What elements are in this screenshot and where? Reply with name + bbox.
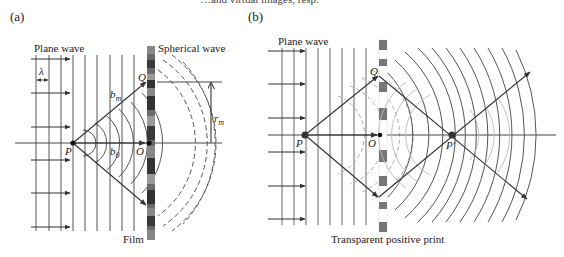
- label-P-prime: P′: [445, 139, 456, 151]
- cropped-caption-text: …and virtual images, resp.: [200, 0, 319, 5]
- hologram-diagram: …and virtual images, resp. (a) Plane wav…: [0, 0, 564, 257]
- label-O-a: O: [136, 145, 144, 157]
- panel-b-label: (b): [248, 9, 263, 24]
- plane-wave-label-b: Plane wave: [278, 35, 329, 47]
- panel-a-label: (a): [10, 9, 24, 24]
- print-label: Transparent positive print: [331, 233, 444, 245]
- point-P-prime: [449, 132, 456, 139]
- film-label: Film: [123, 233, 144, 245]
- label-O-b: O: [368, 137, 376, 149]
- panel-b: (b) Plane wave: [248, 9, 556, 245]
- label-Q-a: Q: [138, 71, 146, 83]
- point-O-a: [146, 140, 151, 145]
- spherical-wave-label: Spherical wave: [158, 42, 226, 54]
- label-b-0: b0: [110, 145, 120, 160]
- plane-wave-label-a: Plane wave: [34, 42, 85, 54]
- label-b-m: bm: [110, 88, 122, 103]
- label-Q-b: Q: [370, 65, 378, 77]
- ray-to-Q-b: [305, 76, 378, 135]
- plane-wavefronts-b: [282, 48, 366, 225]
- panel-a: (a) Plane wave λ: [10, 9, 226, 245]
- point-O-b: [378, 133, 383, 138]
- r-m-label: rm: [214, 112, 224, 127]
- label-P-b: P: [295, 137, 303, 149]
- label-P-a: P: [64, 145, 72, 157]
- lambda-label: λ: [38, 65, 44, 77]
